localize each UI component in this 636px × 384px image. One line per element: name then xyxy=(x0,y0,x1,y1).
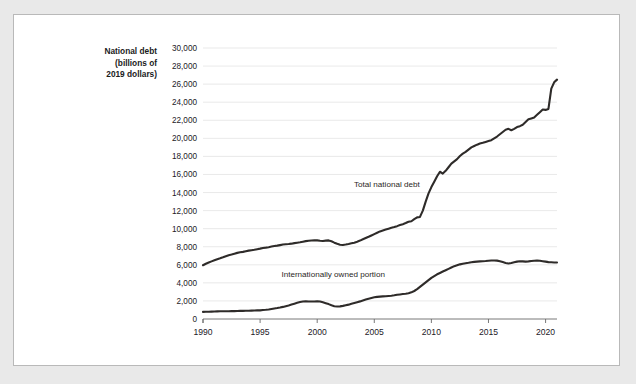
x-axis-tick-label: 1990 xyxy=(193,327,212,337)
x-axis-tick-label: 1995 xyxy=(251,327,270,337)
y-axis-tick-label: 18,000 xyxy=(172,152,197,161)
national-debt-line-chart: 02,0004,0006,0008,00010,00012,00014,0001… xyxy=(14,15,619,365)
series-annotation-label: Internationally owned portion xyxy=(281,270,385,279)
y-axis-title-line: (billions of xyxy=(115,58,157,68)
y-axis-tick-label: 16,000 xyxy=(172,170,197,179)
series-line xyxy=(203,260,557,311)
y-axis-tick-label: 26,000 xyxy=(172,80,197,89)
y-axis-tick-label: 24,000 xyxy=(172,98,197,107)
y-axis-tick-label: 0 xyxy=(192,315,197,324)
y-axis-tick-label: 12,000 xyxy=(172,207,197,216)
y-axis-title-line: 2019 dollars) xyxy=(106,69,157,79)
y-axis-tick-label: 30,000 xyxy=(172,44,197,53)
y-axis-tick-label: 6,000 xyxy=(177,261,198,270)
x-axis-tick-label: 2020 xyxy=(536,327,555,337)
x-axis-tick-label: 2000 xyxy=(308,327,327,337)
y-axis-tick-label: 10,000 xyxy=(172,225,197,234)
y-axis-tick-label: 8,000 xyxy=(177,243,198,252)
series-line xyxy=(203,80,557,266)
y-axis-title-line: National debt xyxy=(104,46,157,56)
x-axis-tick-label: 2005 xyxy=(365,327,384,337)
series-annotation-label: Total national debt xyxy=(354,180,420,189)
y-axis-tick-labels: 02,0004,0006,0008,00010,00012,00014,0001… xyxy=(172,44,197,324)
x-axis-tick-label: 2015 xyxy=(479,327,498,337)
x-axis-tick-label: 2010 xyxy=(422,327,441,337)
y-axis-tick-label: 14,000 xyxy=(172,189,197,198)
figure-card: 02,0004,0006,0008,00010,00012,00014,0001… xyxy=(13,14,620,366)
x-axis-ticks xyxy=(203,319,546,323)
y-axis-tick-label: 22,000 xyxy=(172,116,197,125)
y-axis-tick-label: 20,000 xyxy=(172,134,197,143)
y-axis-tick-label: 28,000 xyxy=(172,62,197,71)
y-axis-tick-label: 4,000 xyxy=(177,279,198,288)
y-axis-tick-label: 2,000 xyxy=(177,297,198,306)
y-axis-title: National debt(billions of2019 dollars) xyxy=(104,46,157,79)
x-axis-tick-labels: 1990199520002005201020152020 xyxy=(193,327,555,337)
axis-lines xyxy=(203,319,557,323)
